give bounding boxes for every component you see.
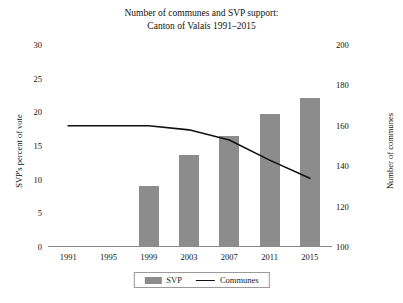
x-tick-label: 1999 <box>140 252 157 262</box>
chart-title-line-1: Number of communes and SVP support: <box>0 7 403 20</box>
legend-item-communes: Communes <box>196 275 259 285</box>
right-axis-ticks: 200180160140120100 <box>336 45 368 247</box>
chart-legend: SVP Communes <box>133 272 269 288</box>
chart-title: Number of communes and SVP support: Cant… <box>0 7 403 32</box>
right-axis-label: Number of communes <box>385 91 395 211</box>
x-tick-label: 2003 <box>181 252 198 262</box>
chart-title-line-2: Canton of Valais 1991–2015 <box>0 20 403 33</box>
legend-item-svp: SVP <box>144 275 182 285</box>
right-tick-label: 160 <box>336 121 366 131</box>
chart-container: Number of communes and SVP support: Cant… <box>0 0 403 303</box>
left-tick-label: 0 <box>16 242 42 252</box>
left-tick-label: 25 <box>16 74 42 84</box>
right-tick-label: 180 <box>336 80 366 90</box>
left-axis-label: SVP's percent of vote <box>14 91 24 211</box>
right-tick-label: 120 <box>336 202 366 212</box>
legend-label-svp: SVP <box>166 275 182 285</box>
right-tick-label: 200 <box>336 40 366 50</box>
legend-line-swatch-icon <box>196 280 215 281</box>
legend-bar-swatch-icon <box>144 277 161 284</box>
x-tick-label: 2011 <box>261 252 278 262</box>
x-tick-label: 2007 <box>221 252 238 262</box>
x-tick-label: 1991 <box>60 252 77 262</box>
line-series-communes <box>48 45 330 247</box>
communes-polyline <box>68 126 310 179</box>
right-tick-label: 100 <box>336 242 366 252</box>
x-tick-label: 2015 <box>301 252 318 262</box>
plot-area <box>48 45 330 247</box>
x-tick-label: 1995 <box>100 252 117 262</box>
left-tick-label: 30 <box>16 40 42 50</box>
right-tick-label: 140 <box>336 161 366 171</box>
legend-label-communes: Communes <box>220 275 259 285</box>
